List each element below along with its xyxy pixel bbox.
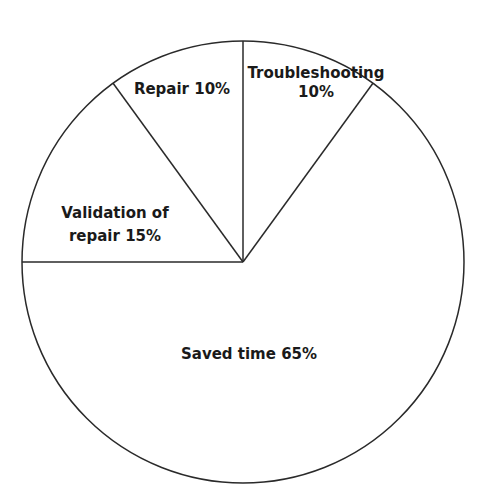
label-saved-time: Saved time 65% [181,345,317,363]
label-validation-line2: repair 15% [69,227,161,245]
label-validation-line1: Validation of [61,204,169,222]
label-troubleshooting-line1: Troubleshooting [248,64,385,82]
label-saved-time-line1: Saved time 65% [181,345,317,363]
label-troubleshooting-line2: 10% [298,83,334,101]
pie-chart: Troubleshooting 10% Saved time 65% Valid… [0,0,484,497]
label-repair: Repair 10% [134,80,230,98]
label-repair-line1: Repair 10% [134,80,230,98]
